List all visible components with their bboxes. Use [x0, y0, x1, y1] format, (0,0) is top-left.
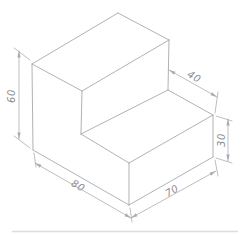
isometric-step-block-drawing: 6040308070 — [0, 0, 245, 235]
dimension-label-30: 30 — [216, 133, 227, 147]
part-edge — [82, 40, 169, 91]
extension-line — [215, 160, 218, 176]
part-edge — [32, 64, 82, 91]
part-edge — [118, 13, 169, 40]
extension-line — [216, 158, 232, 163]
extension-line — [130, 208, 132, 222]
dimension-label-60: 60 — [6, 89, 17, 103]
dimension-arrowhead — [131, 213, 138, 218]
extension-line — [215, 92, 218, 113]
dimension-arrowhead — [17, 133, 20, 140]
dimension-arrowhead — [209, 171, 216, 176]
dimension-arrowhead — [211, 92, 217, 97]
dimension-arrowhead — [125, 213, 131, 218]
technical-drawing-canvas: 6040308070 — [0, 0, 245, 235]
extension-line — [14, 48, 30, 60]
extension-line — [34, 153, 36, 167]
dimension-label-70: 70 — [163, 183, 180, 199]
extension-line — [14, 136, 30, 148]
part-edge — [168, 90, 213, 115]
part-edge — [129, 157, 213, 205]
dimension-label-40: 40 — [185, 69, 202, 85]
part-edge — [32, 13, 118, 64]
part-edge — [168, 40, 169, 90]
part-edge — [33, 150, 129, 205]
part-edge — [81, 90, 168, 134]
part-edge — [81, 134, 129, 163]
dimension-arrowhead — [226, 155, 229, 162]
part-edge — [32, 64, 33, 150]
part-edge — [81, 91, 82, 134]
part-edge — [129, 115, 213, 163]
dimension-arrowhead — [169, 70, 175, 75]
dimension-arrowhead — [17, 51, 20, 58]
extension-line — [216, 116, 232, 121]
